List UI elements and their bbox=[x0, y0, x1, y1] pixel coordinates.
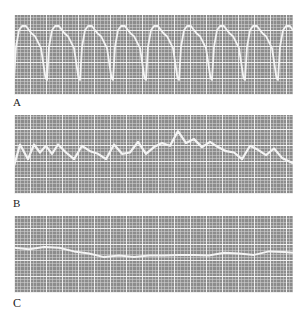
panel-label-b: B bbox=[13, 198, 20, 209]
trace-a bbox=[14, 15, 293, 95]
panel-label-c: C bbox=[13, 297, 21, 309]
panel-label-a: A bbox=[13, 97, 21, 108]
strip-c bbox=[14, 216, 293, 293]
trace-c bbox=[14, 216, 293, 293]
strip-a bbox=[14, 15, 293, 95]
strip-b bbox=[14, 115, 293, 194]
trace-b bbox=[14, 115, 293, 194]
